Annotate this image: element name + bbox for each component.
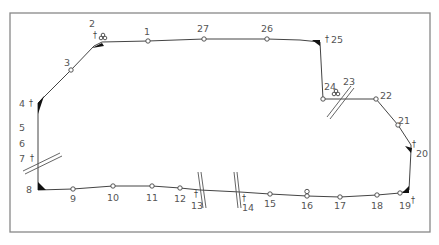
station-label-14: 14 (242, 202, 254, 213)
station-node-19[interactable] (398, 191, 402, 195)
station-label-15: 15 (264, 198, 276, 209)
station-label-22: 22 (380, 90, 392, 101)
station-label-3: 3 (64, 57, 70, 68)
station-label-24: 24 (324, 81, 336, 92)
station-node-9[interactable] (71, 187, 75, 191)
station-label-20: 20 (416, 148, 428, 159)
route-diagram: † † † † † † † † 2 1 27 26 25 3 4 5 6 7 8… (0, 0, 439, 245)
station-node-10[interactable] (111, 184, 115, 188)
station-node-16[interactable] (305, 194, 309, 198)
station-label-4: 4 (19, 98, 25, 109)
station-node-12[interactable] (178, 186, 182, 190)
cross-icon-2: † (93, 31, 97, 40)
station-node-16-upper (305, 189, 309, 193)
station-label-10: 10 (107, 192, 119, 203)
station-label-5: 5 (19, 122, 25, 133)
station-label-19: 19 (399, 200, 411, 211)
station-node-18[interactable] (375, 193, 379, 197)
station-node-22[interactable] (374, 97, 378, 101)
terminal-marker-4 (38, 96, 44, 114)
break-marker-14 (234, 172, 241, 208)
route-line (38, 39, 411, 197)
station-node-27[interactable] (202, 37, 206, 41)
station-label-16: 16 (301, 200, 313, 211)
station-label-6: 6 (19, 138, 25, 149)
cross-icon-25: † (325, 35, 329, 44)
station-label-1: 1 (144, 26, 150, 37)
terminal-marker-25 (312, 40, 320, 46)
station-node-24[interactable] (321, 97, 325, 101)
station-label-11: 11 (146, 192, 158, 203)
station-node-17[interactable] (338, 195, 342, 199)
station-label-2: 2 (89, 18, 95, 29)
junction-icon-2 (99, 33, 107, 40)
station-label-25: 25 (331, 34, 343, 45)
cross-icon-13: † (194, 190, 198, 199)
terminal-marker-8 (38, 182, 46, 190)
station-node-15[interactable] (268, 192, 272, 196)
station-label-13: 13 (191, 200, 203, 211)
station-label-26: 26 (261, 23, 273, 34)
station-node-26[interactable] (265, 37, 269, 41)
station-label-17: 17 (334, 200, 346, 211)
station-label-23: 23 (343, 76, 355, 87)
station-label-18: 18 (371, 200, 383, 211)
station-label-8: 8 (26, 184, 32, 195)
station-node-11[interactable] (150, 184, 154, 188)
station-label-12: 12 (174, 193, 186, 204)
station-label-9: 9 (70, 193, 76, 204)
station-label-27: 27 (197, 23, 209, 34)
station-node-3[interactable] (69, 68, 73, 72)
break-marker-7 (23, 153, 62, 174)
station-label-7: 7 (19, 153, 25, 164)
cross-icon-19: † (411, 196, 415, 205)
cross-icon-7: † (30, 154, 34, 163)
station-label-21: 21 (398, 115, 410, 126)
cross-icon-4: † (29, 99, 33, 108)
station-node-1[interactable] (146, 39, 150, 43)
